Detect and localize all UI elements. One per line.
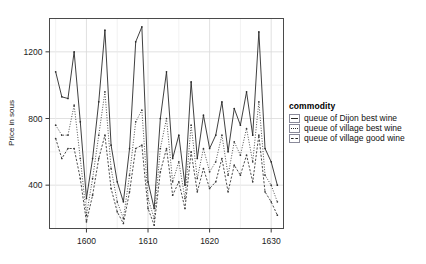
y-axis-ticks: 4008001200 — [24, 47, 50, 190]
y-tick-label: 1200 — [24, 47, 43, 57]
legend-item-label: queue of village best wine — [304, 123, 402, 133]
data-series-2 — [55, 134, 278, 226]
legend-swatch-dashed-icon — [289, 134, 300, 143]
y-tick-label: 400 — [28, 180, 42, 190]
legend-item[interactable]: queue of village good wine — [289, 133, 405, 143]
legend: commodity queue of Dijon best winequeue … — [289, 101, 405, 143]
x-tick-label: 1610 — [139, 236, 158, 246]
y-axis-title: Price in sous — [7, 100, 16, 146]
x-axis-ticks: 1600161016201630 — [77, 229, 281, 246]
x-tick-label: 1620 — [200, 236, 219, 246]
legend-item-label: queue of village good wine — [304, 133, 405, 143]
data-series-layer — [55, 26, 278, 226]
data-series-1 — [55, 91, 278, 219]
y-tick-label: 800 — [28, 114, 42, 124]
legend-title: commodity — [289, 101, 405, 111]
x-tick-label: 1630 — [262, 236, 281, 246]
legend-entries: queue of Dijon best winequeue of village… — [289, 113, 405, 143]
legend-swatch-solid-icon — [289, 114, 300, 123]
chart-figure: 4008001200 1600161016201630 Price in sou… — [0, 0, 426, 264]
legend-swatch-dotted-icon — [289, 124, 300, 133]
legend-item[interactable]: queue of Dijon best wine — [289, 113, 405, 123]
x-tick-label: 1600 — [77, 236, 96, 246]
legend-item-label: queue of Dijon best wine — [304, 113, 397, 123]
legend-item[interactable]: queue of village best wine — [289, 123, 405, 133]
